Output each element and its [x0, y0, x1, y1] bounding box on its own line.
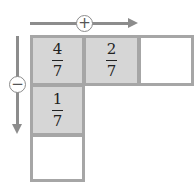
fraction-bar: [106, 60, 117, 61]
numerator: 2: [107, 42, 117, 57]
numerator: 1: [53, 92, 63, 107]
fraction-bar: [52, 110, 63, 111]
minus-sign: −: [11, 77, 24, 92]
cell-r0-c1: 2 7: [83, 35, 140, 86]
arrow-right-icon: [128, 18, 138, 28]
cell-r2-c0-empty: [30, 134, 85, 182]
fraction-bar: [52, 60, 63, 61]
fraction: 1 7: [52, 92, 63, 129]
denominator: 7: [53, 64, 63, 79]
numerator: 4: [53, 42, 63, 57]
fraction: 2 7: [106, 42, 117, 79]
cell-r0-c2-empty: [138, 35, 194, 86]
minus-icon: −: [9, 76, 26, 93]
cell-r1-c0: 1 7: [30, 84, 85, 136]
fraction: 4 7: [52, 42, 63, 79]
plus-sign: +: [78, 16, 91, 31]
denominator: 7: [107, 64, 117, 79]
denominator: 7: [53, 114, 63, 129]
cell-r0-c0: 4 7: [30, 35, 85, 86]
arrow-down-icon: [12, 124, 22, 134]
plus-icon: +: [76, 15, 93, 32]
